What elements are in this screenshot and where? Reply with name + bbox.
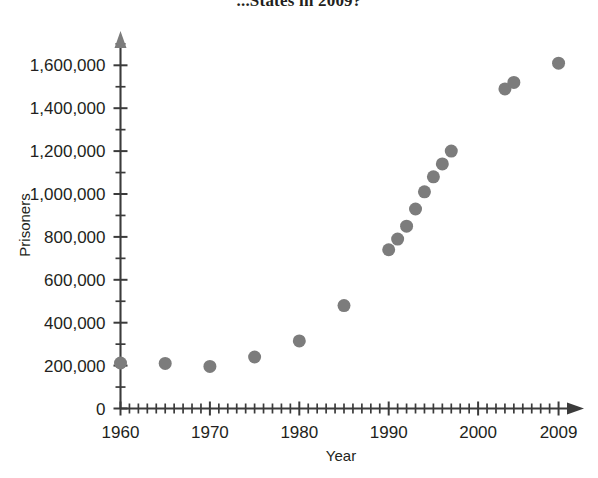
data-point — [391, 233, 404, 246]
y-tick-label: 1,200,000 — [30, 142, 106, 161]
y-tick-label: 1,400,000 — [30, 99, 106, 118]
x-tick-label: 1970 — [191, 423, 229, 442]
x-axis-tick-labels: 196019701980199020002009 — [102, 423, 578, 442]
y-tick-label: 0 — [96, 400, 105, 419]
data-point — [293, 334, 306, 347]
x-tick-label: 2000 — [459, 423, 497, 442]
scatter-chart: ...States in 2009? 0200,000400,000600,00… — [0, 0, 598, 478]
data-point — [552, 57, 565, 70]
data-point — [382, 243, 395, 256]
y-tick-label: 400,000 — [44, 314, 105, 333]
y-tick-label: 800,000 — [44, 228, 105, 247]
data-point-group — [114, 57, 565, 373]
x-tick-label: 1960 — [102, 423, 140, 442]
data-point — [338, 299, 351, 312]
data-point — [203, 360, 216, 373]
y-tick-label: 1,600,000 — [30, 56, 106, 75]
data-point — [418, 185, 431, 198]
data-point — [427, 170, 440, 183]
y-tick-label: 1,000,000 — [30, 185, 106, 204]
data-point — [114, 357, 127, 370]
x-tick-label: 2009 — [540, 423, 578, 442]
data-point — [248, 351, 261, 364]
data-point — [507, 76, 520, 89]
x-axis-arrowhead — [567, 403, 584, 415]
data-point — [436, 157, 449, 170]
data-point — [445, 145, 458, 158]
x-axis-title: Year — [326, 447, 356, 464]
data-point — [409, 203, 422, 216]
y-tick-label: 600,000 — [44, 271, 105, 290]
data-point — [159, 357, 172, 370]
y-axis-title: Prisoners — [16, 193, 33, 256]
x-tick-label: 1990 — [370, 423, 408, 442]
data-point — [400, 220, 413, 233]
y-axis-arrowhead — [115, 31, 127, 48]
y-tick-label: 200,000 — [44, 357, 105, 376]
y-axis-tick-labels: 0200,000400,000600,000800,0001,000,0001,… — [30, 56, 106, 418]
plot-area: 0200,000400,000600,000800,0001,000,0001,… — [0, 0, 598, 478]
x-tick-label: 1980 — [280, 423, 318, 442]
